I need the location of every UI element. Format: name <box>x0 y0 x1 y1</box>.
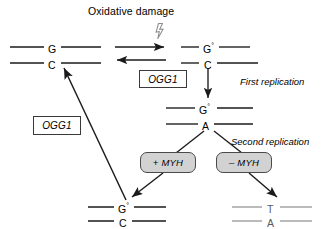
repaired-duplex-bottom-base: C <box>119 216 127 228</box>
base-letter: C <box>204 59 212 71</box>
base-letter: A <box>267 217 274 229</box>
gene-box-ogg1-top-label: OGG1 <box>148 74 178 85</box>
plus-myh-branch-arrow <box>176 131 204 153</box>
damaged-duplex-bottom-base: C <box>204 58 212 70</box>
mismatch-duplex-bottom-base: A <box>202 119 209 131</box>
oxidative-damage-pathway-figure: Oxidative damage G C G° C G° A G° C T A … <box>0 0 325 228</box>
base-letter: A <box>202 120 209 132</box>
enzyme-box-plus-myh-label: + MYH <box>153 157 183 168</box>
damaged-duplex-strands <box>181 47 258 63</box>
base-letter: T <box>267 203 274 215</box>
mutated-duplex-top-base: T <box>267 202 274 214</box>
base-letter: C <box>48 59 56 71</box>
first-replication-label: First replication <box>240 77 304 87</box>
diagram-vector-layer <box>0 0 325 228</box>
enzyme-box-minus-myh-label: – MYH <box>229 157 259 168</box>
repaired-duplex-top-base: G° <box>118 202 129 214</box>
damaged-duplex-top-base: G° <box>203 42 214 54</box>
enzyme-box-minus-myh: – MYH <box>216 152 272 173</box>
base-superscript: ° <box>211 42 214 49</box>
second-replication-label: Second replication <box>231 137 309 147</box>
enzyme-box-plus-myh: + MYH <box>140 152 196 173</box>
base-letter: G <box>48 43 56 55</box>
gene-box-ogg1-left: OGG1 <box>33 116 81 135</box>
base-superscript: ° <box>207 103 210 110</box>
lightning-bolt-icon <box>156 24 163 39</box>
mutated-duplex-bottom-base: A <box>267 216 274 228</box>
figure-title: Oxidative damage <box>88 6 174 17</box>
mutation-arrow-icon <box>249 173 277 197</box>
gene-box-ogg1-left-label: OGG1 <box>42 120 72 131</box>
undamaged-duplex-top-base: G <box>48 42 56 54</box>
base-superscript: ° <box>126 202 129 209</box>
base-letter: C <box>119 217 127 229</box>
mismatch-duplex-top-base: G° <box>199 103 210 115</box>
gene-box-ogg1-top: OGG1 <box>139 70 187 88</box>
repair-arrow-icon <box>132 173 163 197</box>
undamaged-duplex-bottom-base: C <box>48 58 56 70</box>
